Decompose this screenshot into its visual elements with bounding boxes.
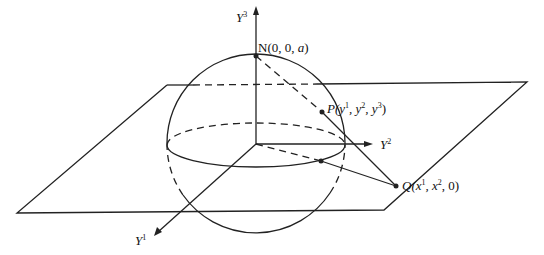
y1-label: Y1 xyxy=(135,233,146,248)
q-label: Q(x1, x2, 0) xyxy=(402,178,459,193)
y2-label: Y2 xyxy=(380,137,391,152)
y1-arrow-icon xyxy=(154,227,162,236)
plane xyxy=(17,82,527,213)
point-q xyxy=(394,184,399,189)
n-label: N(0, 0, a) xyxy=(258,40,309,55)
y2-arrow-icon xyxy=(364,141,373,147)
point-p xyxy=(320,110,325,115)
y3-label: Y3 xyxy=(236,10,247,25)
point-equator xyxy=(319,159,324,164)
p-label: P(y1, y2, y3) xyxy=(326,101,386,116)
y3-arrow-icon xyxy=(253,6,259,15)
stereographic-projection-diagram: Y3 Y2 Y1 N(0, 0, a) P(y1, y2, y3) Q(x1, … xyxy=(0,0,544,255)
